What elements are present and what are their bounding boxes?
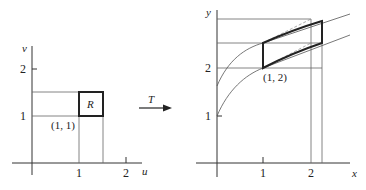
arrow-head-icon — [163, 105, 172, 112]
x-axis-label: x — [351, 167, 357, 179]
v-tick-label-1: 1 — [20, 109, 26, 123]
u-axis-label: u — [142, 165, 148, 177]
transform-arrow: T — [139, 93, 172, 112]
transformation-diagram: v u 2 1 1 2 R (1, 1) T y — [0, 0, 366, 190]
right-plot: y x 2 1 1 2 (1, 2) — [196, 6, 357, 180]
v-tick-label-2: 2 — [20, 62, 26, 76]
region-label: R — [86, 98, 94, 110]
y-tick-label-2: 2 — [205, 61, 211, 75]
left-plot: v u 2 1 1 2 R (1, 1) — [12, 42, 148, 180]
u-tick-label-1: 1 — [76, 166, 82, 180]
y-tick-label-1: 1 — [205, 109, 211, 123]
u-tick-label-2: 2 — [123, 166, 129, 180]
image-region — [263, 21, 322, 68]
x-tick-label-1: 1 — [260, 166, 266, 180]
corner-label-xy: (1, 2) — [263, 71, 287, 84]
x-tick-label-2: 2 — [308, 166, 314, 180]
corner-label-uv: (1, 1) — [51, 119, 75, 132]
transform-label: T — [148, 93, 155, 105]
y-axis-label: y — [205, 6, 211, 18]
v-axis-label: v — [22, 42, 27, 54]
